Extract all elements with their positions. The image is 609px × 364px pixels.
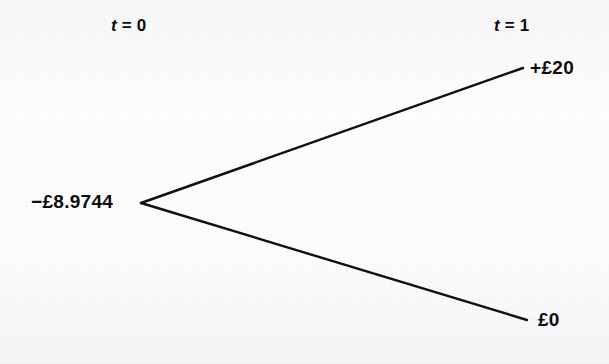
time-value-t1: = 1 (500, 16, 530, 35)
time-value-t0: = 0 (117, 16, 147, 35)
binomial-tree-figure: t = 0 t = 1 −£8.9744 +£20 £0 (0, 0, 609, 364)
down-branch-line (141, 203, 527, 320)
up-node-value: +£20 (530, 58, 574, 77)
root-node-value: −£8.9744 (31, 192, 113, 211)
time-label-t1: t = 1 (494, 17, 530, 34)
down-node-value: £0 (538, 310, 560, 329)
tree-branches (0, 0, 609, 364)
time-label-t0: t = 0 (111, 17, 147, 34)
up-branch-line (141, 68, 523, 203)
